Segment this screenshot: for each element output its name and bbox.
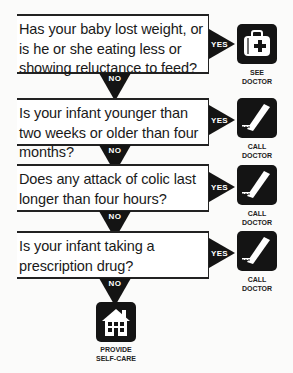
telephone-icon [240,234,274,268]
call-doctor-caption-2: CALL DOCTOR [232,210,282,227]
call-doctor-caption-1: CALL DOCTOR [232,143,282,160]
question-box-2: Is your infant younger than two weeks or… [17,98,209,146]
question-text-3: Does any attack of colic last longer tha… [19,171,196,207]
yes-label-4: YES [211,249,228,258]
call-doctor-icon-box-3 [237,231,277,271]
self-care-icon-box [96,302,136,342]
no-label-1: NO [99,74,131,83]
no-label-2: NO [99,146,131,155]
see-doctor-caption: SEE DOCTOR [232,69,282,86]
call-doctor-icon-box-2 [237,165,277,205]
yes-label-3: YES [211,183,228,192]
yes-label-2: YES [211,116,228,125]
call-doctor-icon-box-1 [237,98,277,138]
telephone-icon [240,168,274,202]
call-doctor-caption-3: CALL DOCTOR [232,276,282,293]
question-box-3: Does any attack of colic last longer tha… [17,164,209,212]
house-icon [100,306,132,338]
no-label-4: NO [99,279,131,288]
question-text-1: Has your baby lost weight, or is he or s… [19,21,203,76]
self-care-caption: PROVIDE SELF-CARE [91,346,141,363]
telephone-icon [240,101,274,135]
question-box-4: Is your infant taking a prescription dru… [17,231,209,279]
see-doctor-icon-box [237,24,277,64]
doctor-bag-icon [242,30,272,58]
question-box-1: Has your baby lost weight, or is he or s… [17,14,209,74]
no-label-3: NO [99,212,131,221]
question-text-4: Is your infant taking a prescription dru… [19,238,155,274]
yes-label-1: YES [211,40,228,49]
